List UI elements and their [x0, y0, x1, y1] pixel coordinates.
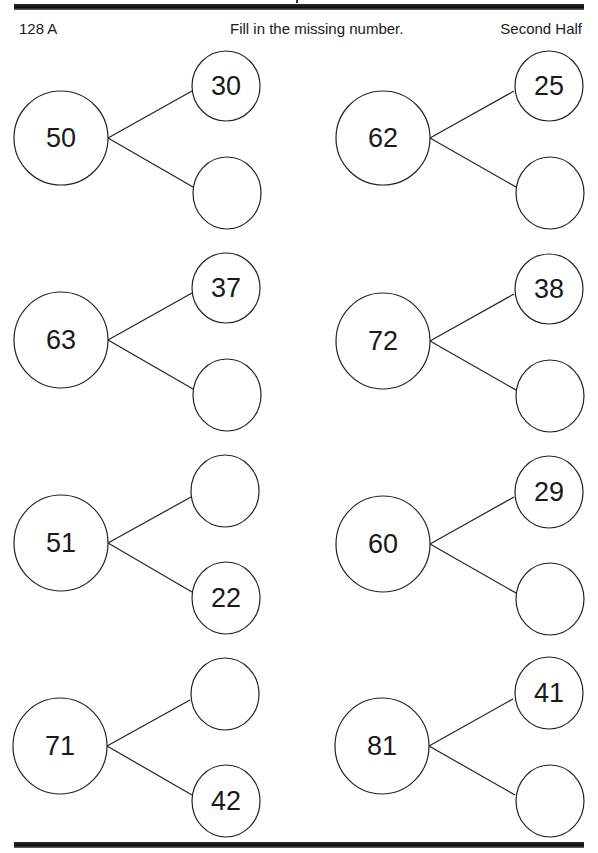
- whole-value: 63: [46, 325, 76, 355]
- part-top-circle[interactable]: [191, 658, 259, 730]
- part-top-value: 25: [534, 71, 564, 101]
- part-top-value: 29: [534, 477, 564, 507]
- part-bottom-circle[interactable]: [516, 360, 584, 432]
- number-bond-grid: 50 30 62 25 63 37 72 38: [0, 0, 598, 853]
- number-bond-6: 60 29: [336, 456, 584, 635]
- part-top-value: 37: [211, 273, 241, 303]
- number-bond-5: 51 22: [14, 455, 260, 634]
- whole-value: 81: [367, 731, 397, 761]
- number-bond-2: 62 25: [336, 51, 584, 229]
- part-top-value: 41: [534, 678, 564, 708]
- part-top-value: 38: [534, 274, 564, 304]
- whole-value: 71: [45, 731, 75, 761]
- part-top-circle[interactable]: [191, 455, 259, 527]
- part-bottom-circle[interactable]: [516, 157, 584, 229]
- number-bond-7: 71 42: [13, 658, 260, 837]
- part-bottom-circle[interactable]: [193, 157, 261, 229]
- number-bond-1: 50 30: [14, 51, 261, 229]
- whole-value: 50: [46, 123, 76, 153]
- number-bond-4: 72 38: [336, 254, 584, 432]
- part-bottom-circle[interactable]: [516, 563, 584, 635]
- part-bottom-value: 22: [211, 583, 241, 613]
- whole-value: 62: [368, 123, 398, 153]
- whole-value: 51: [46, 528, 76, 558]
- number-bond-8: 81 41: [335, 657, 584, 837]
- part-bottom-circle[interactable]: [516, 765, 584, 837]
- bottom-rule: [14, 842, 584, 848]
- whole-value: 60: [368, 529, 398, 559]
- part-bottom-circle[interactable]: [193, 359, 261, 431]
- whole-value: 72: [368, 326, 398, 356]
- number-bond-3: 63 37: [14, 253, 261, 431]
- part-top-value: 30: [211, 71, 241, 101]
- part-bottom-value: 42: [211, 786, 241, 816]
